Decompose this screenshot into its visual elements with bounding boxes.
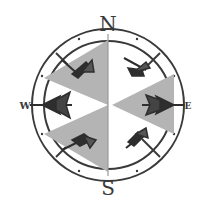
label-south: S <box>101 176 115 200</box>
south-east-arrow-icon <box>126 128 148 148</box>
label-east: E <box>185 101 192 111</box>
west-arrow-icon <box>30 92 72 118</box>
label-north: N <box>99 12 117 36</box>
compass-rose: N S W E <box>0 0 208 209</box>
label-west: W <box>18 100 31 111</box>
north-east-arrow-icon <box>124 58 150 76</box>
